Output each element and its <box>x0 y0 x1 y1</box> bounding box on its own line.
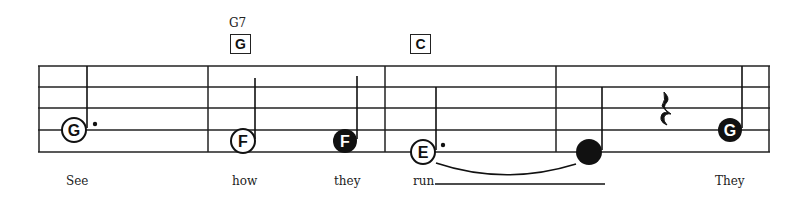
barlines <box>39 66 769 152</box>
note-g-quarter: G <box>718 66 742 142</box>
svg-text:E: E <box>418 144 429 161</box>
lyric-how: how <box>232 174 257 188</box>
lyric-see: See <box>66 174 88 188</box>
svg-text:F: F <box>340 133 350 150</box>
lyric-run: run <box>413 174 434 188</box>
lyric-they: they <box>334 174 360 188</box>
chord-box-c: C <box>410 34 431 54</box>
svg-text:G: G <box>724 122 736 139</box>
staff-lines <box>38 66 770 152</box>
chord-name-g7: G7 <box>229 16 246 30</box>
augmentation-dot <box>93 122 97 126</box>
augmentation-dot <box>441 143 445 147</box>
note-tied-quarter <box>576 87 602 165</box>
note-f-half: F <box>231 78 255 153</box>
chord-box-g: G <box>230 34 251 54</box>
music-staff: G F F E G <box>0 0 803 203</box>
svg-text:G: G <box>68 122 80 139</box>
lyric-they-capital: They <box>715 174 745 188</box>
tie <box>436 163 576 175</box>
svg-text:F: F <box>238 133 248 150</box>
